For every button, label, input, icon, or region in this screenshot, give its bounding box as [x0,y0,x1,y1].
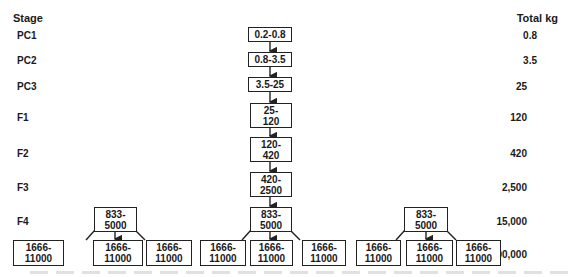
truncated-caption [30,271,570,274]
range-box-f5-1: 1666- 11000 [13,240,64,266]
range-box-f5-9: 1666- 11000 [456,240,501,266]
range-box-f5-7: 1666- 11000 [356,240,401,266]
range-box-f4-left: 833- 5000 [94,207,137,232]
range-box-f5-5: 1666- 11000 [250,240,293,266]
range-box-f5-6: 1666- 11000 [302,240,346,266]
range-box-f4-center: 833- 5000 [250,207,292,232]
range-box-f2: 120- 420 [250,137,292,162]
range-box-pc2: 0.8-3.5 [248,52,292,67]
range-box-f1: 25- 120 [250,103,292,128]
range-box-f5-3: 1666- 11000 [146,240,192,266]
range-box-f5-8: 1666- 11000 [406,240,453,266]
range-box-pc3: 3.5-25 [248,77,292,92]
range-box-f4-right: 833- 5000 [404,207,448,232]
range-box-pc1: 0.2-0.8 [248,27,292,42]
range-box-f5-4: 1666- 11000 [200,240,246,266]
range-box-f5-2: 1666- 11000 [93,240,143,266]
range-box-f3: 420- 2500 [250,172,292,197]
